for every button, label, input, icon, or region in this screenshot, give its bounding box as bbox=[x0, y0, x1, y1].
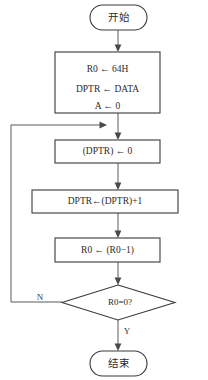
branch-label-no: N bbox=[37, 292, 44, 302]
edge-deccnt-to-decision bbox=[115, 262, 122, 285]
node-init-label-line1: R0 ← 64H bbox=[87, 64, 129, 74]
edge-clear-to-incptr bbox=[115, 163, 122, 190]
edge-start-to-init bbox=[115, 30, 122, 52]
edge-init-to-clear bbox=[115, 113, 122, 140]
node-clear-process[interactable]: (DPTR) ← 0 bbox=[55, 140, 160, 163]
node-init-label-line2: DPTR ← DATA bbox=[76, 84, 139, 94]
node-deccnt-label: R0 ← (R0−1) bbox=[81, 245, 134, 256]
node-clear-label: (DPTR) ← 0 bbox=[83, 146, 133, 157]
node-incptr-process[interactable]: DPTR←(DPTR)+1 bbox=[32, 190, 178, 213]
node-incptr-label: DPTR←(DPTR)+1 bbox=[68, 196, 143, 207]
node-init-label-line3: A ← 0 bbox=[95, 101, 121, 111]
node-decision-label: R0=0? bbox=[108, 297, 132, 307]
node-init-process[interactable]: R0 ← 64H DPTR ← DATA A ← 0 bbox=[55, 52, 160, 113]
node-start-label: 开始 bbox=[108, 11, 130, 23]
flowchart-canvas: 开始 R0 ← 64H DPTR ← DATA A ← 0 (DPTR) ← 0… bbox=[0, 0, 208, 380]
edge-decision-yes-to-end bbox=[115, 320, 122, 351]
edge-incptr-to-deccnt bbox=[115, 213, 122, 238]
node-decision-diamond[interactable]: R0=0? bbox=[62, 285, 175, 320]
node-end-label: 结束 bbox=[108, 357, 130, 369]
branch-label-yes: Y bbox=[124, 326, 131, 336]
node-start-terminal[interactable]: 开始 bbox=[90, 5, 147, 30]
node-deccnt-process[interactable]: R0 ← (R0−1) bbox=[55, 238, 160, 262]
node-end-terminal[interactable]: 结束 bbox=[90, 351, 147, 376]
